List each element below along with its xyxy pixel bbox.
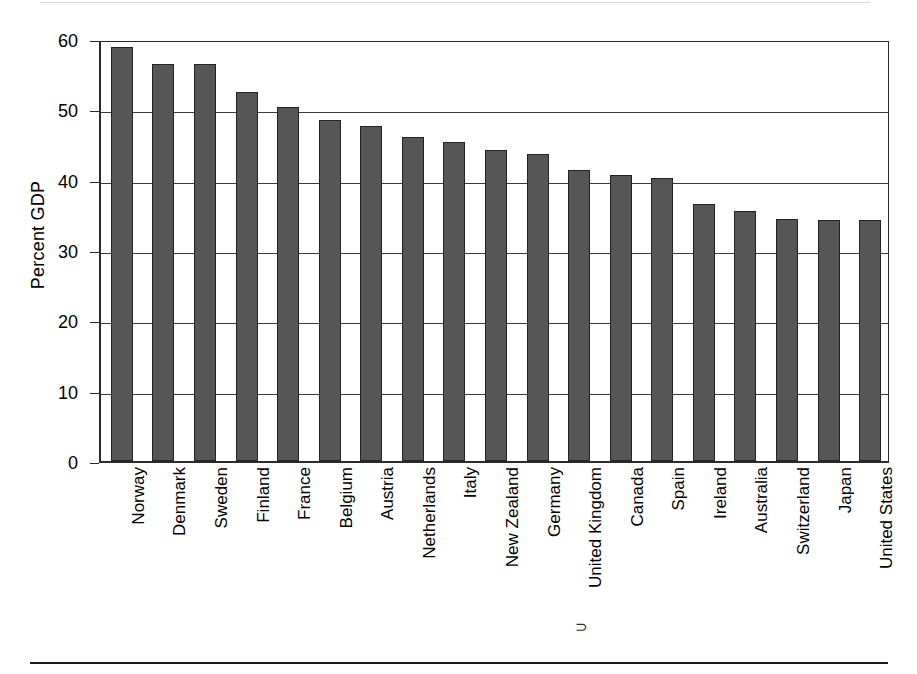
- y-tick-label: 30: [8, 243, 78, 261]
- y-tick-label: 50: [8, 102, 78, 120]
- y-tick-mark: [90, 41, 99, 42]
- y-tick-label: 0: [8, 454, 78, 472]
- plot-area: [99, 41, 889, 463]
- scan-artifact-glyph: ⊃: [575, 618, 588, 636]
- bar: [568, 170, 590, 461]
- y-tick-label: 20: [8, 313, 78, 331]
- x-axis-label: Japan: [835, 467, 857, 667]
- bar: [360, 126, 382, 461]
- bar-series: [101, 42, 888, 461]
- x-axis-label: New Zealand: [502, 467, 524, 667]
- y-tick-mark: [90, 111, 99, 112]
- bar: [111, 47, 133, 461]
- bar: [651, 178, 673, 461]
- x-axis-label: United States: [876, 467, 898, 667]
- x-axis-label: Netherlands: [419, 467, 441, 667]
- x-axis-category-labels: NorwayDenmarkSwedenFinlandFranceBelgiumA…: [99, 467, 889, 667]
- y-tick-mark: [90, 393, 99, 394]
- bar: [152, 64, 174, 461]
- x-axis-label: Norway: [128, 467, 150, 667]
- bottom-rule: [30, 662, 888, 664]
- bar: [443, 142, 465, 461]
- y-tick-label: 10: [8, 384, 78, 402]
- x-axis-label: Belgium: [336, 467, 358, 667]
- y-axis-ticks: 0102030405060: [0, 41, 99, 463]
- bar: [194, 64, 216, 461]
- bar: [485, 150, 507, 461]
- x-axis-label: Sweden: [211, 467, 233, 667]
- bar: [818, 220, 840, 461]
- bar: [402, 137, 424, 461]
- y-tick-mark: [90, 463, 99, 464]
- x-axis-label: United Kingdom: [585, 467, 607, 667]
- bar: [776, 219, 798, 461]
- y-tick-label: 60: [8, 32, 78, 50]
- x-axis-label: Switzerland: [793, 467, 815, 667]
- bar: [734, 211, 756, 461]
- x-axis-label: Spain: [668, 467, 690, 667]
- bar: [527, 154, 549, 461]
- figure: Percent GDP 0102030405060 NorwayDenmarkS…: [0, 0, 917, 674]
- bar: [693, 204, 715, 461]
- y-tick-mark: [90, 322, 99, 323]
- bar: [319, 120, 341, 461]
- bar: [277, 107, 299, 461]
- x-axis-label: Ireland: [710, 467, 732, 667]
- x-axis-label: Denmark: [169, 467, 191, 667]
- x-axis-label: Austria: [377, 467, 399, 667]
- x-axis-label: France: [294, 467, 316, 667]
- bar: [236, 92, 258, 461]
- x-axis-label: Germany: [544, 467, 566, 667]
- x-axis-label: Finland: [253, 467, 275, 667]
- x-axis-label: Australia: [751, 467, 773, 667]
- bar: [610, 175, 632, 461]
- y-tick-mark: [90, 182, 99, 183]
- scan-top-rule: [40, 2, 870, 3]
- x-axis-label: Italy: [460, 467, 482, 667]
- x-axis-label: Canada: [627, 467, 649, 667]
- bar: [859, 220, 881, 461]
- y-tick-label: 40: [8, 173, 78, 191]
- y-tick-mark: [90, 252, 99, 253]
